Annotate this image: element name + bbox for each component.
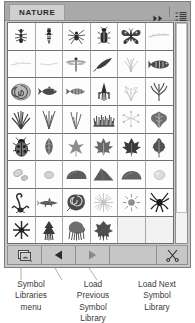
snail-shell-symbol — [66, 192, 87, 212]
boulder-symbol — [92, 167, 115, 182]
squid-symbol — [96, 81, 112, 102]
symbol-cell-fish-oval[interactable] — [146, 51, 174, 79]
oak-leaf-symbol — [150, 137, 168, 158]
symbol-cell-boulder[interactable] — [91, 161, 119, 189]
symbol-cell-scatter-dots[interactable] — [118, 106, 146, 134]
feather-symbol — [93, 55, 114, 73]
symbol-cell-ant[interactable] — [8, 23, 36, 51]
sprout-symbol — [122, 54, 140, 74]
double-chevron-right-icon[interactable] — [153, 8, 164, 15]
symbol-cell-butterfly[interactable] — [118, 23, 146, 51]
symbol-grid-container[interactable] — [7, 22, 174, 244]
symbol-cell-scorpion[interactable] — [8, 189, 36, 217]
symbol-cell-stone[interactable] — [63, 161, 91, 189]
symbol-cell-beetle[interactable] — [91, 23, 119, 51]
rock-symbol — [120, 168, 143, 181]
load-next-caption: Load Next Symbol Library — [124, 279, 190, 323]
dragonfly-symbol — [65, 54, 87, 74]
tab-label: NATURE — [19, 8, 55, 17]
symbol-cell-spider[interactable] — [63, 23, 91, 51]
panel-toolbar — [7, 245, 188, 265]
ant-symbol — [11, 26, 31, 46]
grass-blades-symbol — [40, 109, 58, 130]
symbol-cell-grass-blades[interactable] — [36, 106, 64, 134]
symbol-cell-sprout[interactable] — [118, 51, 146, 79]
symbol-cell-grass-clump[interactable] — [8, 106, 36, 134]
load-previous-caption: Load Previous Symbol Library — [62, 279, 124, 323]
stem-symbol — [38, 59, 60, 69]
symbol-cell-bush[interactable] — [63, 217, 91, 244]
ladybug-symbol — [12, 137, 31, 158]
symbol-cell-maple-leaf-dark[interactable] — [118, 134, 146, 162]
symbol-cell-star-dark[interactable] — [8, 217, 36, 244]
symbol-cell-stem-faint[interactable] — [36, 51, 64, 79]
symbol-cell-grass-dense[interactable] — [91, 106, 119, 134]
symbol-cell-branch-faint[interactable] — [8, 51, 36, 79]
maple-leaf-dark-symbol — [121, 137, 142, 157]
vertical-scrollbar-track[interactable] — [175, 22, 188, 244]
symbol-cell-empty[interactable] — [118, 217, 146, 244]
spider-symbol — [66, 26, 87, 47]
symbol-cell-shrub[interactable] — [91, 217, 119, 244]
symbol-cell-shark[interactable] — [36, 189, 64, 217]
symbol-cell-seaweed[interactable] — [118, 78, 146, 106]
grass-tuft-symbol — [67, 109, 85, 130]
symbol-cell-nautilus-shell[interactable] — [8, 78, 36, 106]
libraries-stack-icon — [17, 249, 33, 262]
pine-tree-symbol — [40, 220, 58, 241]
symbol-cell-pebble-small[interactable] — [36, 161, 64, 189]
toolbar-spacer — [110, 246, 157, 264]
delete-symbol-button[interactable] — [157, 246, 187, 264]
symbol-cell-spider-dark[interactable] — [146, 189, 174, 217]
symbol-cell-grass-tuft[interactable] — [63, 106, 91, 134]
symbol-cell-oak-leaf[interactable] — [146, 134, 174, 162]
spider-dark-symbol — [149, 192, 170, 213]
grass-dense-symbol — [93, 112, 115, 127]
maple-leaf-symbol — [93, 137, 114, 157]
symbol-cell-starburst[interactable] — [91, 189, 119, 217]
symbol-cell-leaf-simple[interactable] — [36, 134, 64, 162]
symbol-cell-snail-shell[interactable] — [63, 189, 91, 217]
symbols-panel: NATURE — [4, 1, 191, 268]
symbol-libraries-menu-button[interactable] — [8, 246, 42, 264]
symbol-cell-leaf-ivy[interactable] — [146, 106, 174, 134]
header-divider — [169, 6, 170, 17]
nautilus-symbol — [10, 82, 32, 102]
grass-clump-symbol — [11, 109, 32, 130]
vertical-scrollbar-thumb[interactable] — [176, 23, 187, 213]
symbol-cell-twig[interactable] — [146, 23, 174, 51]
fish-symbol — [37, 85, 60, 98]
symbol-cell-fish-striped[interactable] — [63, 78, 91, 106]
star-leaf-symbol — [66, 137, 86, 157]
symbol-cell-maple-leaf[interactable] — [91, 134, 119, 162]
symbol-cell-wasp[interactable] — [36, 23, 64, 51]
panel-header-controls — [153, 2, 187, 21]
symbol-cell-pine-tree[interactable] — [36, 217, 64, 244]
panel-menu-icon[interactable] — [175, 7, 187, 16]
symbol-cell-stone-light[interactable] — [146, 161, 174, 189]
stone-symbol — [65, 168, 88, 181]
leaf-symbol — [42, 137, 56, 157]
tab-nature[interactable]: NATURE — [9, 4, 65, 20]
fish-striped-symbol — [65, 85, 88, 98]
fish-oval-symbol — [148, 58, 171, 71]
right-triangle-icon — [88, 250, 97, 260]
symbol-cell-empty[interactable] — [146, 217, 174, 244]
left-triangle-icon — [54, 250, 63, 260]
symbol-cell-sun[interactable] — [118, 189, 146, 217]
load-next-symbol-library-button[interactable] — [76, 246, 110, 264]
symbol-cell-ladybug[interactable] — [8, 134, 36, 162]
symbol-cell-pebbles[interactable] — [8, 161, 36, 189]
symbol-cell-feather[interactable] — [91, 51, 119, 79]
symbol-cell-coral[interactable] — [146, 78, 174, 106]
scatter-symbol — [120, 110, 142, 128]
symbol-cell-squid[interactable] — [91, 78, 119, 106]
symbol-cell-rock[interactable] — [118, 161, 146, 189]
butterfly-symbol — [120, 27, 142, 46]
load-previous-symbol-library-button[interactable] — [42, 246, 76, 264]
symbol-cell-leaf-star[interactable] — [63, 134, 91, 162]
branch-symbol — [10, 59, 32, 69]
symbol-grid — [8, 23, 173, 244]
symbol-cell-fish[interactable] — [36, 78, 64, 106]
symbol-cell-dragonfly[interactable] — [63, 51, 91, 79]
